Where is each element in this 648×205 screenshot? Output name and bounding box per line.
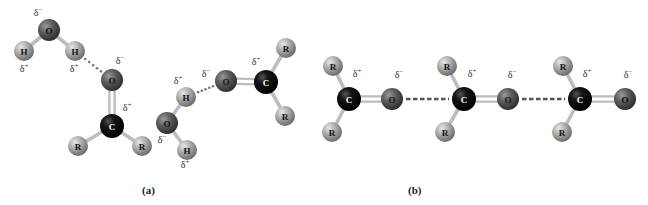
partial-negative-charge: δ− <box>34 6 43 18</box>
hydrogen-atom: H <box>65 41 85 61</box>
panel-label-b: (b) <box>408 184 421 196</box>
atom-label: R <box>559 128 566 138</box>
molecule-diagram: OHHOCRRHOHOCRRRCORRCORRCOR δ−δ+δ+δ−δ+δ+δ… <box>0 0 648 205</box>
partial-negative-charge: δ− <box>158 133 167 145</box>
atoms-layer: OHHOCRRHOHOCRRRCORRCORRCOR <box>14 19 636 160</box>
atom-label: C <box>577 95 584 105</box>
partial-positive-charge: δ+ <box>252 55 261 67</box>
carbon-atom: C <box>568 87 592 111</box>
r-group-atom: R <box>322 122 342 142</box>
partial-positive-charge: δ+ <box>468 67 477 79</box>
atom-label: C <box>263 78 270 88</box>
carbonyl-intermolecular-forces-figure: OHHOCRRHOHOCRRRCORRCORRCOR δ−δ+δ+δ−δ+δ+δ… <box>0 0 648 205</box>
atom-label: R <box>329 128 336 138</box>
atom-label: R <box>283 44 290 54</box>
r-group-atom: R <box>435 122 455 142</box>
atom-label: O <box>504 95 511 105</box>
atom-label: O <box>222 77 229 87</box>
r-group-atom: R <box>437 56 457 76</box>
atom-label: R <box>282 112 289 122</box>
atom-label: O <box>388 95 395 105</box>
atom-label: H <box>20 47 27 57</box>
r-group-atom: R <box>276 38 296 58</box>
partial-negative-charge: δ− <box>624 68 633 80</box>
atom-label: C <box>109 122 116 132</box>
oxygen-atom: O <box>38 19 60 41</box>
atom-label: O <box>108 76 115 86</box>
oxygen-atom: O <box>497 88 519 110</box>
oxygen-atom: O <box>215 70 237 92</box>
r-group-atom: R <box>132 136 152 156</box>
hydrogen-bond-dots <box>84 58 102 73</box>
partial-positive-charge: δ+ <box>70 62 79 74</box>
partial-positive-charge: δ+ <box>174 74 183 86</box>
partial-positive-charge: δ+ <box>181 158 190 170</box>
partial-negative-charge: δ− <box>202 67 211 79</box>
carbon-atom: C <box>254 70 278 94</box>
r-group-atom: R <box>552 122 572 142</box>
partial-positive-charge: δ+ <box>123 101 132 113</box>
r-group-atom: R <box>323 56 343 76</box>
partial-positive-charge: δ+ <box>583 67 592 79</box>
partial-positive-charge: δ+ <box>20 62 29 74</box>
atom-label: C <box>461 95 468 105</box>
atom-label: O <box>45 26 52 36</box>
hydrogen-bond-dots <box>197 85 215 94</box>
oxygen-atom: O <box>156 112 178 134</box>
atom-label: R <box>330 62 337 72</box>
partial-negative-charge: δ− <box>508 68 517 80</box>
atom-label: O <box>163 119 170 129</box>
carbon-atom: C <box>100 114 124 138</box>
panel-label-a: (a) <box>142 184 155 196</box>
atom-label: C <box>346 95 353 105</box>
atom-label: R <box>75 142 82 152</box>
atom-label: R <box>444 62 451 72</box>
atom-label: R <box>139 142 146 152</box>
r-group-atom: R <box>553 56 573 76</box>
partial-negative-charge: δ− <box>116 54 125 66</box>
r-group-atom: R <box>68 136 88 156</box>
partial-negative-charge: δ− <box>395 68 404 80</box>
oxygen-atom: O <box>381 88 403 110</box>
atom-label: R <box>560 62 567 72</box>
oxygen-atom: O <box>101 69 123 91</box>
atom-label: R <box>442 128 449 138</box>
hydrogen-atom: H <box>14 41 34 61</box>
atom-label: H <box>182 93 189 103</box>
carbon-atom: C <box>337 87 361 111</box>
atom-label: H <box>183 146 190 156</box>
partial-positive-charge: δ+ <box>353 67 362 79</box>
r-group-atom: R <box>275 106 295 126</box>
oxygen-atom: O <box>614 88 636 110</box>
atom-label: O <box>621 95 628 105</box>
hydrogen-atom: H <box>177 140 197 160</box>
hydrogen-atom: H <box>176 87 196 107</box>
atom-label: H <box>71 47 78 57</box>
carbon-atom: C <box>452 87 476 111</box>
